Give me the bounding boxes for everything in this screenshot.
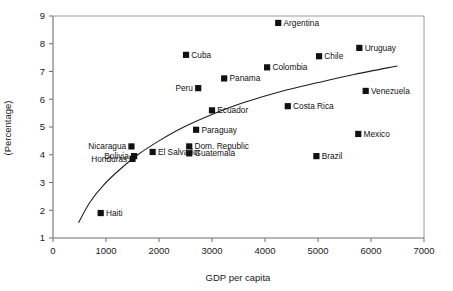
data-point: Nicaragua	[88, 141, 134, 151]
y-tick-label: 9	[40, 10, 45, 21]
scatter-chart-figure: 01000200030004000500060007000 123456789 …	[0, 0, 453, 291]
data-point-marker	[183, 52, 189, 58]
data-point-marker	[275, 20, 281, 26]
data-point-label: Cuba	[191, 50, 211, 60]
data-point: Venezuela	[363, 86, 411, 96]
data-point-marker	[285, 103, 291, 109]
data-point-label: Honduras	[91, 154, 127, 164]
data-point-label: Chile	[324, 51, 343, 61]
data-point-label: Brazil	[322, 151, 343, 161]
data-point: Paraguay	[193, 125, 238, 135]
data-point-label: Panama	[229, 73, 260, 83]
data-point: Costa Rica	[285, 101, 334, 111]
data-point-marker	[221, 75, 227, 81]
data-point-marker	[186, 150, 192, 156]
data-point: Chile	[316, 51, 344, 61]
x-tick-label: 6000	[360, 245, 381, 256]
data-point-label: Guatemala	[195, 148, 236, 158]
x-axis-title: GDP per capita	[206, 272, 271, 283]
data-point-marker	[98, 210, 104, 216]
data-point-marker	[129, 156, 135, 162]
data-point-marker	[363, 88, 369, 94]
data-point-marker	[195, 85, 201, 91]
y-tick-label: 1	[40, 232, 45, 243]
x-tick-label: 1000	[95, 245, 116, 256]
y-tick-label: 6	[40, 94, 45, 105]
data-point-label: Haiti	[106, 208, 123, 218]
x-tick-label: 5000	[307, 245, 328, 256]
data-point-marker	[316, 53, 322, 59]
data-point-marker	[150, 149, 156, 155]
data-point-label: Colombia	[272, 62, 307, 72]
data-point: Haiti	[98, 208, 123, 218]
x-tick-label: 7000	[413, 245, 434, 256]
y-tick-label: 2	[40, 205, 45, 216]
data-point-marker	[209, 107, 215, 113]
data-point: Cuba	[183, 50, 212, 60]
data-point: Honduras	[91, 154, 135, 164]
data-point-label: Mexico	[364, 129, 391, 139]
y-axis-ticks: 123456789	[40, 10, 53, 243]
data-point: Panama	[221, 73, 261, 83]
y-tick-label: 7	[40, 66, 45, 77]
x-tick-label: 2000	[148, 245, 169, 256]
data-point-label: Ecuador	[217, 105, 248, 115]
data-point: El Salvador	[150, 147, 201, 157]
data-point-marker	[356, 45, 362, 51]
data-point-marker	[313, 153, 319, 159]
data-point: Peru	[175, 83, 201, 93]
data-point: Mexico	[355, 129, 390, 139]
data-point-label: Venezuela	[371, 86, 410, 96]
data-point-label: Paraguay	[201, 125, 237, 135]
data-point-label: Uruguay	[365, 43, 397, 53]
data-point-marker	[264, 64, 270, 70]
data-point-marker	[193, 127, 199, 133]
x-tick-label: 0	[50, 245, 55, 256]
y-axis-title: (Percentage)	[2, 101, 13, 156]
x-tick-label: 3000	[201, 245, 222, 256]
data-point-label: Costa Rica	[293, 101, 334, 111]
y-tick-label: 3	[40, 177, 45, 188]
y-tick-label: 4	[40, 149, 45, 160]
data-point: Brazil	[313, 151, 342, 161]
data-point-label: Peru	[175, 83, 193, 93]
y-tick-label: 8	[40, 38, 45, 49]
x-axis-ticks: 01000200030004000500060007000	[50, 238, 434, 256]
data-point: Argentina	[275, 18, 319, 28]
chart-canvas: 01000200030004000500060007000 123456789 …	[0, 0, 453, 291]
data-point: Colombia	[264, 62, 308, 72]
data-point-label: Nicaragua	[88, 141, 126, 151]
data-point-marker	[355, 131, 361, 137]
data-point-marker	[128, 143, 134, 149]
data-point-label: Argentina	[284, 18, 320, 28]
data-points: ArgentinaUruguayCubaChileColombiaPanamaP…	[88, 18, 410, 218]
data-point: Uruguay	[356, 43, 397, 53]
x-tick-label: 4000	[254, 245, 275, 256]
y-tick-label: 5	[40, 121, 45, 132]
